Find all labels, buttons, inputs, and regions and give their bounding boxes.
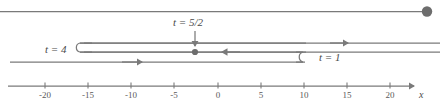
label-t-equals-5-2: t = 5/2 xyxy=(173,17,203,28)
tick-label-0: 0 xyxy=(216,91,221,100)
tick-label-5: 5 xyxy=(259,91,264,100)
tick-label--5: -5 xyxy=(170,91,178,100)
point-dot-mid-icon xyxy=(192,49,198,55)
tick-label-15: 15 xyxy=(343,91,352,100)
endpoint-dot-top-right-icon xyxy=(422,6,432,16)
x-axis-label: x xyxy=(419,90,423,100)
tick-label--15: -15 xyxy=(82,91,94,100)
label-t-equals-4: t = 4 xyxy=(45,44,66,55)
tick-label--10: -10 xyxy=(125,91,137,100)
tick-label-20: 20 xyxy=(386,91,395,100)
figure-canvas: t = 4 t = 5/2 t = 1 x -20 -15 -10 -5 0 5… xyxy=(0,0,440,103)
loop-left-rounded-cap xyxy=(76,43,92,52)
label-t-equals-1: t = 1 xyxy=(319,52,340,63)
loop-right-rounded-cap xyxy=(296,52,303,62)
tick-label--20: -20 xyxy=(39,91,51,100)
tick-label-10: 10 xyxy=(300,91,309,100)
